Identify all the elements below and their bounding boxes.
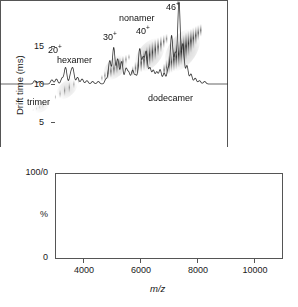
charge-state-30-sign: + [113, 30, 117, 37]
xtick-mark-8000 [197, 259, 198, 263]
oligomer-label-dodecamer: dodecamer [148, 94, 193, 103]
charge-state-label-46: 46+ [166, 3, 180, 12]
charge-state-label-30: 30+ [103, 33, 117, 42]
xtick-label-8000: 8000 [182, 266, 214, 275]
mass-spectrum-trace [0, 0, 228, 86]
charge-state-20-value: 20 [48, 45, 58, 55]
charge-state-40-value: 40 [136, 26, 146, 36]
ytick-label-100-0: 100/0 [8, 168, 48, 177]
xtick-mark-4000 [83, 259, 84, 263]
charge-state-46-sign: + [176, 0, 180, 7]
charge-state-label-40: 40+ [136, 27, 150, 36]
mz-axis-label: m/z [150, 284, 165, 294]
percent-axis-label: % [8, 210, 48, 219]
charge-state-30-value: 30 [103, 32, 113, 42]
mass-spectrum-plot-area: 20+ 30+ 40+ 46+ [0, 0, 228, 86]
charge-state-40-sign: + [146, 24, 150, 31]
xtick-label-4000: 4000 [68, 266, 100, 275]
figure-root: Drift time (ms) 15 10 5 trimer hexamer n… [0, 0, 298, 307]
mass-spectrum-panel: 100/0 % 0 20+ 30+ 40+ 46+ 4000 6000 8000 [0, 0, 228, 86]
oligomer-label-trimer: trimer [27, 98, 50, 107]
ytick-label-0: 0 [8, 253, 48, 262]
xtick-mark-6000 [140, 259, 141, 263]
charge-state-46-value: 46 [166, 2, 176, 12]
xtick-label-6000: 6000 [125, 266, 157, 275]
xtick-label-10000: 10000 [237, 266, 273, 275]
charge-state-20-sign: + [58, 43, 62, 50]
charge-state-label-20: 20+ [48, 46, 62, 55]
mass-spectrum-frame [55, 173, 283, 259]
xtick-mark-10000 [254, 259, 255, 263]
